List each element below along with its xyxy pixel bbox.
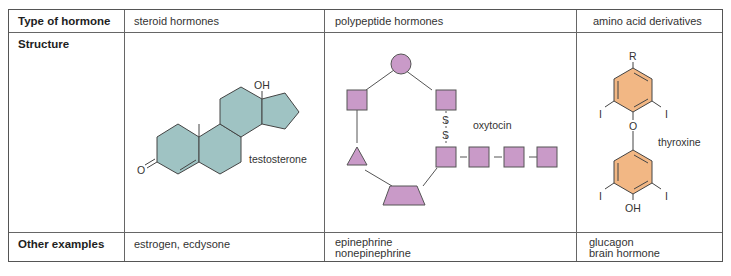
oh-label: OH: [625, 202, 641, 214]
iodine-label: I: [665, 108, 668, 120]
iodine-label: I: [665, 190, 668, 202]
thyroxine-structure: R I I O I I OH thyroxine: [0, 0, 731, 276]
r-label: R: [629, 50, 637, 62]
iodine-label: I: [599, 108, 602, 120]
thyroxine-label: thyroxine: [658, 136, 701, 148]
ether-o-label: O: [629, 120, 637, 132]
iodine-label: I: [599, 190, 602, 202]
